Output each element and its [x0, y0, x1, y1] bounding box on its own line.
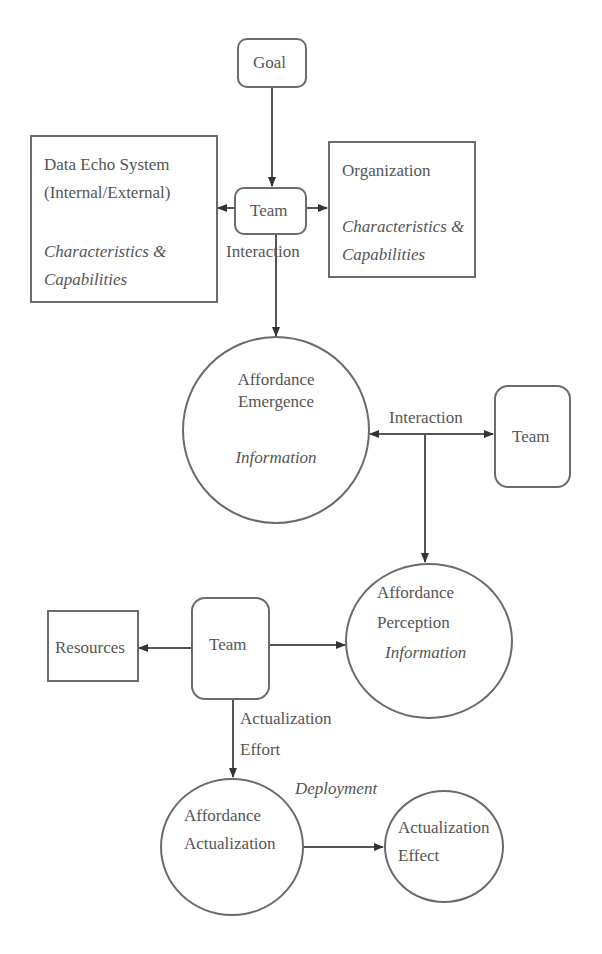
organization-node: Organization Characteristics & Capabilit…	[328, 141, 476, 278]
organization-title: Organization	[342, 161, 430, 181]
deployment-label: Deployment	[295, 779, 377, 799]
team-mid-node: Team	[191, 597, 270, 700]
data-echo-title-1: Data Echo System	[44, 155, 170, 175]
affordance-actualization-node: Affordance Actualization	[160, 778, 304, 916]
perception-line2: Perception	[377, 613, 450, 633]
team-top-node: Team	[234, 187, 307, 235]
perception-line1: Affordance	[377, 583, 454, 603]
actualization-line2: Actualization	[184, 834, 276, 854]
team-top-label: Team	[250, 201, 288, 221]
emergence-line2: Emergence	[184, 392, 368, 412]
goal-node: Goal	[237, 38, 307, 88]
organization-sub-1: Characteristics &	[342, 217, 464, 237]
affordance-perception-node: Affordance Perception Information	[345, 563, 513, 719]
data-echo-title-2: (Internal/External)	[44, 183, 171, 203]
team-top-interaction-caption: Interaction	[226, 242, 300, 262]
emergence-sub: Information	[184, 448, 368, 468]
organization-sub-2: Capabilities	[342, 245, 425, 265]
resources-label: Resources	[55, 638, 125, 658]
goal-label: Goal	[253, 53, 286, 73]
data-echo-system-node: Data Echo System (Internal/External) Cha…	[30, 135, 218, 303]
affordance-emergence-node: Affordance Emergence Information	[182, 336, 370, 524]
team-mid-label: Team	[209, 635, 247, 655]
data-echo-sub-1: Characteristics &	[44, 242, 166, 262]
team-right-node: Team	[494, 385, 571, 488]
perception-sub: Information	[385, 643, 466, 663]
interaction-edge-label: Interaction	[389, 408, 463, 428]
resources-node: Resources	[47, 610, 139, 682]
effect-line2: Effect	[398, 846, 439, 866]
actualization-effort-line2: Effort	[240, 740, 280, 760]
actualization-effect-node: Actualization Effect	[384, 790, 504, 903]
effect-line1: Actualization	[398, 818, 490, 838]
actualization-effort-line1: Actualization	[240, 709, 332, 729]
data-echo-sub-2: Capabilities	[44, 270, 127, 290]
team-right-label: Team	[512, 427, 550, 447]
emergence-line1: Affordance	[184, 370, 368, 390]
actualization-line1: Affordance	[184, 806, 261, 826]
